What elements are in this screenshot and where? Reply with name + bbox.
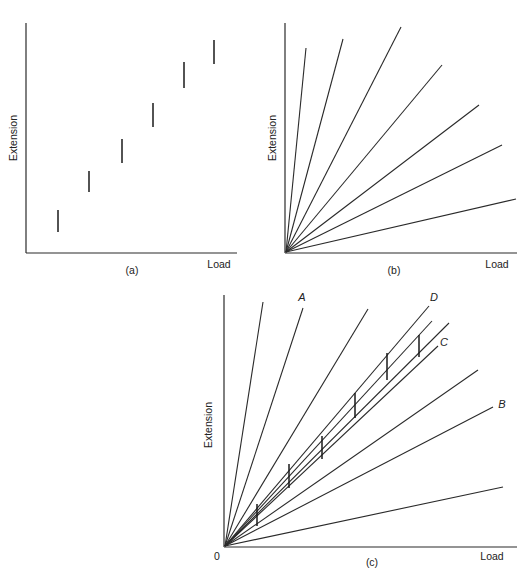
line-label-a: A (297, 291, 305, 303)
x-axis-label: Load (480, 550, 504, 562)
line (225, 323, 449, 546)
x-axis-label: Load (207, 258, 231, 270)
line (286, 27, 401, 252)
panel-caption: (b) (388, 264, 401, 276)
y-axis-label: Extension (202, 402, 214, 448)
y-axis-label: Extension (7, 115, 19, 161)
line (286, 145, 502, 252)
line (225, 321, 432, 546)
line (286, 48, 306, 252)
line-label-c: C (440, 336, 448, 348)
x-axis-label: Load (485, 258, 509, 270)
panel-caption: (c) (366, 556, 378, 568)
line (225, 309, 368, 546)
panel-a: Extension (a) Load (7, 23, 237, 276)
line-label-b: B (498, 398, 505, 410)
origin-label: 0 (214, 550, 220, 562)
line-a (225, 308, 303, 546)
line (286, 65, 442, 252)
panel-c: A D C B Extension 0 (c) Load (202, 291, 517, 568)
panel-b: Extension (b) Load (266, 23, 517, 276)
line-b (225, 407, 493, 546)
y-axis-label: Extension (266, 115, 278, 161)
figure-canvas: Extension (a) Load Extension (b) Load (0, 0, 530, 574)
line-label-d: D (430, 291, 438, 303)
panel-caption: (a) (126, 264, 139, 276)
line (286, 39, 343, 252)
